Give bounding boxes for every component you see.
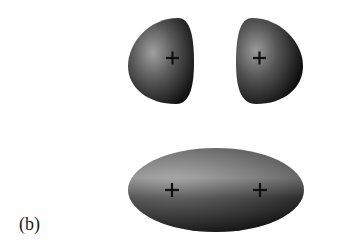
- right-lobe: [236, 18, 303, 104]
- panel-label: (b): [19, 214, 40, 235]
- left-lobe: [128, 18, 194, 104]
- bonding-orbital: [128, 148, 304, 232]
- orbital-diagram: [0, 0, 342, 249]
